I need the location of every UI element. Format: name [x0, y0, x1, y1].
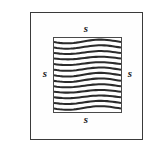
side-label-bottom: s	[80, 114, 93, 125]
wavy-hatch-pattern	[54, 38, 121, 112]
side-label-left: s	[39, 68, 52, 79]
side-label-right: s	[124, 68, 137, 79]
hatched-square	[53, 37, 122, 113]
figure-canvas: s s s s	[0, 0, 157, 152]
side-label-top: s	[80, 23, 93, 34]
